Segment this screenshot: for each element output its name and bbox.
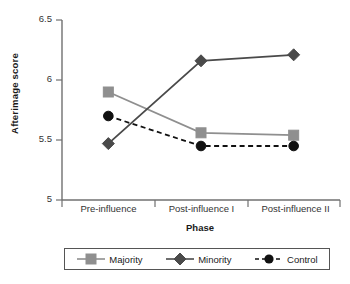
legend-swatch-minority-icon (165, 252, 195, 266)
y-tick-label-6: 6 (22, 73, 52, 84)
y-tick-label-5-5: 5.5 (22, 133, 52, 144)
afterimage-score-line-chart: Afterimage score Phase 6.5 6 5.5 5 Pre-i… (0, 0, 350, 284)
data-point-control-2 (289, 141, 299, 151)
data-point-majority-2 (289, 130, 299, 140)
legend-label-minority: Minority (198, 254, 231, 265)
legend-label-control: Control (287, 254, 318, 265)
legend-item-majority: Majority (76, 252, 142, 266)
x-tick-label-post-influence-2: Post-influence II (248, 203, 343, 214)
x-tick-label-pre-influence: Pre-influence (62, 203, 155, 214)
chart-legend: Majority Minority Control (64, 248, 330, 270)
y-axis-title: Afterimage score (9, 34, 20, 154)
data-point-majority-1 (196, 128, 206, 138)
x-axis-title: Phase (55, 222, 345, 233)
series-layer (102, 49, 299, 151)
data-point-control-0 (104, 111, 114, 121)
legend-item-minority: Minority (165, 252, 231, 266)
legend-swatch-control-icon (254, 252, 284, 266)
y-tick-label-5: 5 (22, 193, 52, 204)
data-point-majority-0 (103, 87, 113, 97)
y-tick-label-6-5: 6.5 (22, 13, 52, 24)
y-axis-ticks (56, 20, 62, 200)
x-tick-label-post-influence-1: Post-influence I (155, 203, 248, 214)
series-majority (103, 87, 298, 140)
plot-area (0, 0, 350, 284)
legend-item-control: Control (254, 252, 318, 266)
data-point-control-1 (196, 141, 206, 151)
legend-swatch-majority-icon (76, 252, 106, 266)
legend-label-majority: Majority (109, 254, 142, 265)
data-point-minority-2 (288, 49, 300, 61)
